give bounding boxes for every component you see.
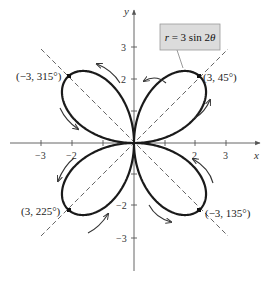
y-axis-label: y [123,5,129,17]
point-label-q2: (−3, 315°) [16,70,62,83]
polar-rose-chart: −3 −2 2 3 3 2 −2 −3 x y (3, 45°) (−3, 31… [0,0,270,281]
callout-pointer [177,50,183,68]
point-label-q3: (3, 225°) [21,205,61,218]
point-label-q1: (3, 45°) [203,71,237,84]
y-tick-label: 3 [121,42,126,53]
point-label-q4: (−3, 135°) [205,207,251,220]
y-tick-label: −2 [116,200,127,211]
x-tick-label: 3 [223,150,228,161]
x-tick-label: −3 [35,150,46,161]
x-tick-label: −2 [66,150,77,161]
x-axis-label: x [253,149,259,161]
equation-label: r = 3 sin 2θ [165,31,216,43]
y-tick-label: 2 [121,74,126,85]
y-tick-label: −3 [116,233,127,244]
